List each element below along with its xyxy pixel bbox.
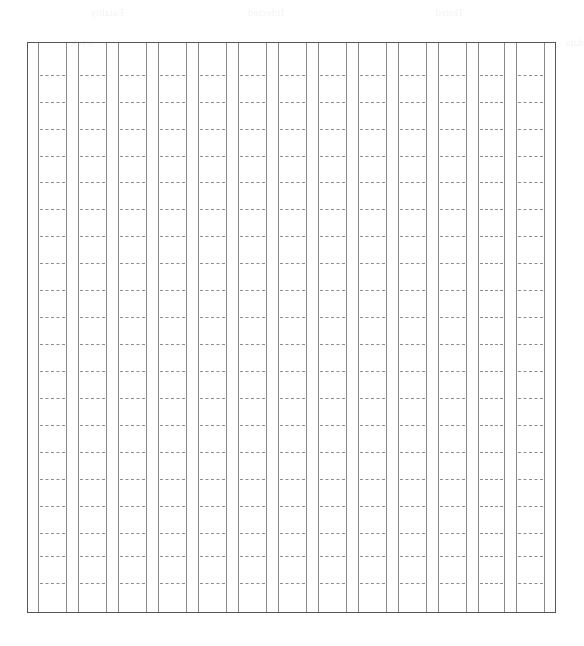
- column-right-rule: [266, 43, 267, 612]
- writing-line: [160, 452, 185, 453]
- writing-line: [240, 129, 265, 130]
- writing-line: [120, 479, 145, 480]
- writing-line: [480, 156, 503, 157]
- writing-line: [320, 344, 345, 345]
- writing-line: [440, 556, 465, 557]
- writing-line: [320, 556, 345, 557]
- writing-line: [160, 102, 185, 103]
- writing-line: [240, 156, 265, 157]
- writing-line: [80, 317, 105, 318]
- writing-line: [280, 236, 305, 237]
- writing-line: [40, 263, 65, 264]
- writing-line: [518, 182, 543, 183]
- writing-line: [160, 156, 185, 157]
- writing-line: [40, 209, 65, 210]
- writing-line: [280, 75, 305, 76]
- writing-line: [400, 533, 425, 534]
- column-left-rule: [358, 43, 359, 612]
- writing-line: [200, 156, 225, 157]
- writing-line: [480, 317, 503, 318]
- column-left-rule: [38, 43, 39, 612]
- writing-line: [400, 182, 425, 183]
- writing-line: [240, 533, 265, 534]
- writing-line: [120, 102, 145, 103]
- writing-line: [480, 506, 503, 507]
- writing-line: [518, 75, 543, 76]
- writing-line: [360, 209, 385, 210]
- writing-line: [40, 156, 65, 157]
- writing-line: [480, 263, 503, 264]
- writing-line: [400, 398, 425, 399]
- writing-line: [440, 452, 465, 453]
- writing-line: [360, 75, 385, 76]
- writing-line: [400, 209, 425, 210]
- writing-line: [280, 182, 305, 183]
- column-left-rule: [398, 43, 399, 612]
- writing-line: [518, 236, 543, 237]
- writing-line: [360, 236, 385, 237]
- writing-line: [400, 263, 425, 264]
- writing-line: [80, 506, 105, 507]
- writing-line: [240, 209, 265, 210]
- writing-line: [480, 182, 503, 183]
- writing-line: [40, 479, 65, 480]
- writing-line: [480, 425, 503, 426]
- writing-line: [200, 506, 225, 507]
- writing-line: [320, 398, 345, 399]
- writing-line: [440, 344, 465, 345]
- writing-line: [280, 556, 305, 557]
- writing-line: [280, 479, 305, 480]
- column-left-rule: [438, 43, 439, 612]
- writing-line: [160, 533, 185, 534]
- writing-line: [518, 156, 543, 157]
- writing-line: [200, 75, 225, 76]
- writing-line: [200, 371, 225, 372]
- writing-line: [80, 583, 105, 584]
- writing-line: [518, 506, 543, 507]
- writing-line: [240, 317, 265, 318]
- writing-line: [40, 75, 65, 76]
- writing-line: [400, 479, 425, 480]
- writing-line: [80, 263, 105, 264]
- writing-line: [40, 398, 65, 399]
- writing-line: [40, 317, 65, 318]
- column-right-rule: [426, 43, 427, 612]
- writing-line: [360, 129, 385, 130]
- writing-line: [480, 479, 503, 480]
- column-left-rule: [198, 43, 199, 612]
- writing-line: [360, 263, 385, 264]
- column-left-rule: [158, 43, 159, 612]
- writing-line: [120, 425, 145, 426]
- writing-line: [440, 533, 465, 534]
- column-right-rule: [226, 43, 227, 612]
- writing-line: [400, 317, 425, 318]
- writing-line: [480, 533, 503, 534]
- writing-line: [400, 425, 425, 426]
- writing-line: [80, 398, 105, 399]
- writing-line: [480, 398, 503, 399]
- writing-line: [160, 583, 185, 584]
- writing-line: [280, 452, 305, 453]
- column-left-rule: [318, 43, 319, 612]
- writing-line: [400, 506, 425, 507]
- column-right-rule: [146, 43, 147, 612]
- column-right-rule: [66, 43, 67, 612]
- writing-line: [240, 102, 265, 103]
- writing-line: [360, 556, 385, 557]
- writing-line: [200, 263, 225, 264]
- writing-line: [440, 371, 465, 372]
- writing-line: [120, 263, 145, 264]
- writing-line: [200, 102, 225, 103]
- writing-line: [40, 182, 65, 183]
- writing-line: [360, 583, 385, 584]
- writing-line: [360, 479, 385, 480]
- writing-line: [160, 398, 185, 399]
- writing-line: [320, 290, 345, 291]
- writing-line: [240, 556, 265, 557]
- writing-line: [120, 398, 145, 399]
- writing-line: [240, 506, 265, 507]
- writing-line: [280, 398, 305, 399]
- writing-line: [518, 371, 543, 372]
- column-left-rule: [516, 43, 517, 612]
- column-right-rule: [186, 43, 187, 612]
